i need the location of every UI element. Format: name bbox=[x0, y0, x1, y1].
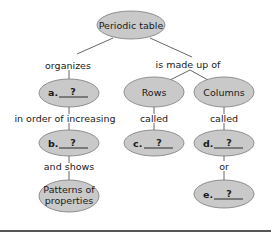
node-letter: d. bbox=[203, 138, 213, 149]
link-label-or: or bbox=[219, 161, 229, 172]
node-d-blank: d. ? bbox=[194, 130, 254, 156]
concept-map: Periodic table organizes is made up of a… bbox=[0, 0, 271, 236]
node-letter: e. bbox=[203, 189, 213, 200]
node-label: Periodic table bbox=[99, 20, 164, 31]
node-letter: a. bbox=[48, 87, 58, 98]
link-label-columns-called: called bbox=[210, 113, 238, 124]
node-letter: b. bbox=[48, 138, 58, 149]
node-letter: c. bbox=[133, 138, 142, 149]
node-label-line2: properties bbox=[45, 195, 94, 206]
bottom-rule bbox=[0, 230, 271, 232]
link-label-and-shows: and shows bbox=[44, 161, 94, 172]
node-columns: Columns bbox=[194, 77, 254, 107]
node-label: Columns bbox=[203, 87, 244, 98]
blank-placeholder: ? bbox=[156, 137, 162, 148]
node-b-blank: b. ? bbox=[39, 130, 99, 156]
blank-placeholder: ? bbox=[226, 137, 232, 148]
link-label-organizes: organizes bbox=[45, 60, 91, 71]
node-c-blank: c. ? bbox=[124, 130, 184, 156]
blank-placeholder: ? bbox=[70, 86, 76, 97]
link-label-made-up-of: is made up of bbox=[156, 59, 221, 70]
node-a-blank: a. ? bbox=[39, 79, 99, 107]
node-rows: Rows bbox=[124, 77, 184, 107]
node-e-blank: e. ? bbox=[194, 180, 254, 208]
blank-placeholder: ? bbox=[70, 137, 76, 148]
link-label-in-order-of-increasing: in order of increasing bbox=[14, 113, 115, 124]
node-patterns-of-properties: Patterns of properties bbox=[39, 180, 99, 212]
link-label-rows-called: called bbox=[140, 113, 168, 124]
blank-placeholder: ? bbox=[226, 188, 232, 199]
node-label: Rows bbox=[142, 87, 167, 98]
node-periodic-table: Periodic table bbox=[97, 11, 165, 39]
node-label-line1: Patterns of bbox=[43, 184, 95, 195]
